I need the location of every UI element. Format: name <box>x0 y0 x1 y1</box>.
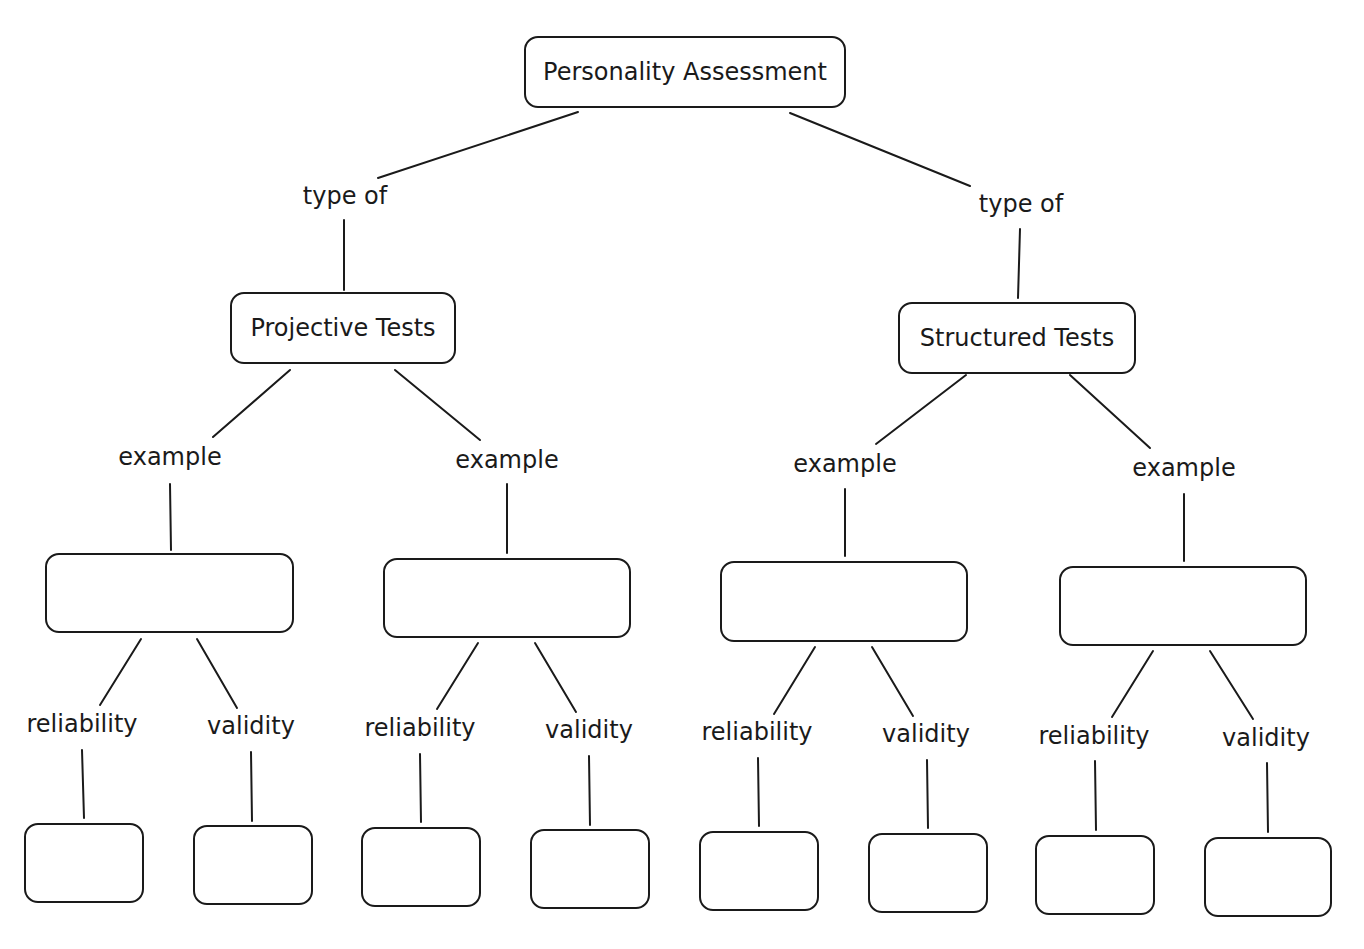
link-label-example: example <box>1132 454 1235 482</box>
example-box-empty[interactable] <box>45 553 294 633</box>
validity-box-empty[interactable] <box>1204 837 1332 917</box>
validity-box-empty[interactable] <box>193 825 313 905</box>
validity-box-empty[interactable] <box>868 833 988 913</box>
reliability-box-empty[interactable] <box>24 823 144 903</box>
node-projective-tests: Projective Tests <box>230 292 456 364</box>
node-personality-assessment: Personality Assessment <box>524 36 846 108</box>
link-label-validity: validity <box>207 712 295 740</box>
link-label-reliability: reliability <box>365 714 476 742</box>
link-label-reliability: reliability <box>27 710 138 738</box>
reliability-box-empty[interactable] <box>1035 835 1155 915</box>
link-label-validity: validity <box>882 720 970 748</box>
node-label: Structured Tests <box>920 324 1114 352</box>
reliability-box-empty[interactable] <box>699 831 819 911</box>
validity-box-empty[interactable] <box>530 829 650 909</box>
node-structured-tests: Structured Tests <box>898 302 1136 374</box>
node-label: Personality Assessment <box>543 58 827 86</box>
link-label-reliability: reliability <box>702 718 813 746</box>
link-label-example: example <box>793 450 896 478</box>
example-box-empty[interactable] <box>720 561 968 642</box>
link-label-type-of: type of <box>303 182 387 210</box>
concept-map: Personality Assessment type of type of P… <box>0 0 1364 949</box>
link-label-reliability: reliability <box>1039 722 1150 750</box>
link-label-validity: validity <box>1222 724 1310 752</box>
node-label: Projective Tests <box>250 314 435 342</box>
example-box-empty[interactable] <box>1059 566 1307 646</box>
example-box-empty[interactable] <box>383 558 631 638</box>
link-label-example: example <box>455 446 558 474</box>
link-label-validity: validity <box>545 716 633 744</box>
reliability-box-empty[interactable] <box>361 827 481 907</box>
link-label-example: example <box>118 443 221 471</box>
link-label-type-of: type of <box>979 190 1063 218</box>
